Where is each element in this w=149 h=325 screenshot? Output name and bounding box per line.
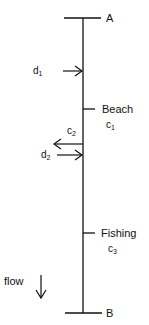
label-d1: d1 [33,66,42,77]
c2-arrow-icon [54,139,83,149]
label-b: B [106,308,113,319]
label-c2: c2 [67,126,76,137]
d1-arrow-icon [63,66,82,76]
label-c1: c1 [106,120,115,131]
label-beach: Beach [102,104,133,115]
flow-arrow-icon [36,275,46,298]
label-flow: flow [4,276,24,287]
label-d2: d2 [41,150,50,161]
d2-arrow-icon [57,150,82,160]
label-c3: c3 [108,244,117,255]
label-a: A [106,13,113,24]
label-fishing: Fishing [101,228,136,239]
